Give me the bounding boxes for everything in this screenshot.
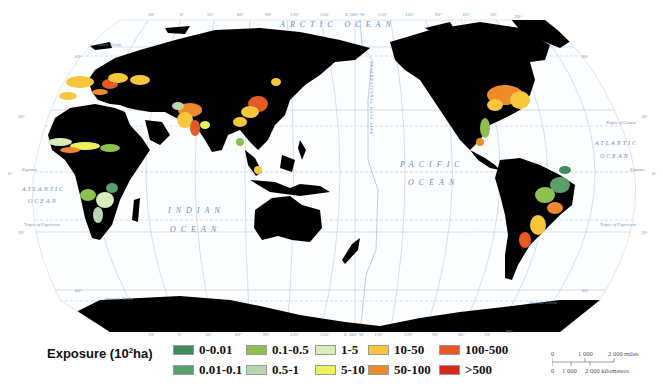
legend-item: 5-10	[315, 363, 365, 377]
scale-bar: 0 1 000 2 000 miles 0 1 000 2 000 kilome…	[548, 348, 663, 378]
svg-text:60°: 60°	[75, 288, 82, 293]
svg-text:60°: 60°	[75, 54, 82, 59]
svg-text:150°: 150°	[320, 332, 330, 337]
scale-ruler	[552, 358, 622, 366]
svg-text:60°: 60°	[582, 288, 589, 293]
svg-text:90°: 90°	[435, 12, 442, 17]
svg-text:Arctic Circle: Arctic Circle	[97, 42, 121, 47]
atlantic-ocean-east-label-1: ATLANTIC	[594, 140, 638, 146]
svg-text:30°: 30°	[18, 114, 25, 119]
svg-text:150°: 150°	[320, 12, 330, 17]
map-canvas: 30° 0° 30° 60° 90° 120° 150° E 180° W 15…	[0, 0, 663, 340]
svg-text:30°: 30°	[490, 12, 497, 17]
legend-swatch	[439, 345, 460, 355]
svg-text:90°: 90°	[515, 14, 522, 19]
svg-text:30°: 30°	[641, 230, 648, 235]
atlantic-ocean-east-label-2: OCEAN	[600, 153, 630, 159]
legend-swatch	[315, 365, 336, 375]
svg-text:120°: 120°	[290, 332, 300, 337]
svg-text:90°: 90°	[263, 332, 270, 337]
svg-text:60°: 60°	[463, 12, 470, 17]
legend-item: 10-50	[368, 343, 424, 357]
svg-text:60°: 60°	[235, 332, 242, 337]
svg-text:Antarctic Circle: Antarctic Circle	[527, 300, 557, 305]
legend-item: >500	[439, 363, 492, 377]
legend-swatch	[315, 345, 336, 355]
svg-text:30°: 30°	[205, 332, 212, 337]
legend-item: 0.5-1	[246, 363, 299, 377]
indian-ocean-label-1: INDIAN	[167, 206, 225, 215]
svg-text:120°: 120°	[404, 332, 414, 337]
svg-text:120°: 120°	[290, 12, 300, 17]
legend-item: 0-0.01	[173, 343, 233, 357]
legend-swatch	[173, 345, 194, 355]
svg-text:0°: 0°	[180, 12, 185, 17]
svg-text:150°: 150°	[374, 332, 384, 337]
legend-item: 100-500	[439, 343, 508, 357]
svg-text:Tropic of Capricorn: Tropic of Capricorn	[600, 222, 637, 227]
svg-text:120°: 120°	[405, 12, 415, 17]
arctic-ocean-label: ARCTIC OCEAN	[279, 20, 396, 29]
svg-text:90°: 90°	[265, 12, 272, 17]
svg-text:90°: 90°	[432, 332, 439, 337]
svg-text:0°: 0°	[178, 332, 183, 337]
legend-swatch	[246, 365, 267, 375]
date-line-label: INTERNATIONAL DATE LINE	[369, 61, 374, 135]
svg-text:Tropic of Capricorn: Tropic of Capricorn	[24, 222, 61, 227]
atlantic-ocean-west-label-2: OCEAN	[28, 198, 58, 204]
svg-text:Antarctic Circle: Antarctic Circle	[103, 296, 133, 301]
legend-item: 1-5	[315, 343, 358, 357]
svg-text:30°: 30°	[484, 332, 491, 337]
svg-text:E 180° W: E 180° W	[345, 12, 365, 17]
legend-item: 0.1-0.5	[246, 343, 309, 357]
legend-swatch	[439, 365, 460, 375]
svg-text:60°: 60°	[237, 12, 244, 17]
svg-text:60°: 60°	[458, 332, 465, 337]
svg-text:90°: 90°	[506, 329, 513, 334]
indian-ocean-label-2: OCEAN	[170, 225, 221, 234]
world-exposure-map: 30° 0° 30° 60° 90° 120° 150° E 180° W 15…	[0, 0, 663, 340]
svg-text:0°: 0°	[8, 171, 13, 176]
legend-swatch	[368, 345, 389, 355]
svg-text:30°: 30°	[148, 12, 155, 17]
legend-swatch	[173, 365, 194, 375]
top-longitude-labels: 30° 0° 30° 60° 90° 120° 150° E 180° W 15…	[148, 12, 522, 19]
legend-swatch	[246, 345, 267, 355]
svg-text:Tropic of Cancer: Tropic of Cancer	[606, 120, 637, 125]
pacific-ocean-label-1: PACIFIC	[399, 160, 465, 169]
svg-text:Equator: Equator	[21, 167, 37, 172]
svg-text:60°: 60°	[582, 54, 589, 59]
svg-text:30°: 30°	[207, 12, 214, 17]
svg-text:150°: 150°	[378, 12, 388, 17]
legend-swatch	[368, 365, 389, 375]
atlantic-ocean-west-label-1: ATLANTIC	[21, 186, 65, 192]
svg-text:30°: 30°	[148, 332, 155, 337]
legend-item: 0.01-0.1	[173, 363, 242, 377]
svg-text:Equator: Equator	[629, 167, 645, 172]
pacific-ocean-label-2: OCEAN	[408, 178, 459, 187]
svg-text:30°: 30°	[18, 230, 25, 235]
svg-text:0°: 0°	[652, 171, 657, 176]
legend-title: Exposure (102ha)	[47, 346, 153, 361]
svg-text:E 180° W: E 180° W	[344, 332, 364, 337]
legend-item: 50-100	[368, 363, 431, 377]
svg-text:30°: 30°	[641, 114, 648, 119]
